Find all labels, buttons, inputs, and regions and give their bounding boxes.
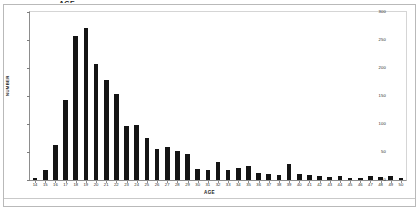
bar bbox=[266, 174, 271, 180]
x-axis-tick-label: 20 bbox=[91, 183, 101, 187]
bar bbox=[134, 125, 139, 180]
bar bbox=[155, 149, 160, 180]
clipped-title: AGE bbox=[59, 0, 75, 3]
x-axis-tick-label: 34 bbox=[233, 183, 243, 187]
x-axis-tick-label: 42 bbox=[315, 183, 325, 187]
bar bbox=[53, 145, 58, 180]
bar bbox=[236, 168, 241, 180]
x-axis-tick-label: 16 bbox=[50, 183, 60, 187]
x-axis-tick-label: 23 bbox=[121, 183, 131, 187]
x-axis-tick-label: 22 bbox=[111, 183, 121, 187]
bar bbox=[216, 162, 221, 180]
bottom-divider bbox=[4, 198, 415, 199]
x-axis-tick-label: 14 bbox=[30, 183, 40, 187]
bar bbox=[104, 80, 109, 180]
x-axis-tick-label: 38 bbox=[274, 183, 284, 187]
x-axis-tick-label: 30 bbox=[193, 183, 203, 187]
x-axis-tick-label: 17 bbox=[60, 183, 70, 187]
bar bbox=[195, 169, 200, 180]
bar bbox=[287, 164, 292, 180]
bar bbox=[348, 178, 353, 180]
x-axis-tick-label: 24 bbox=[132, 183, 142, 187]
bar bbox=[378, 177, 383, 180]
x-axis-tick-label: 36 bbox=[254, 183, 264, 187]
bar bbox=[327, 177, 332, 180]
bar bbox=[63, 100, 68, 180]
x-axis-tick-label: 41 bbox=[304, 183, 314, 187]
bar bbox=[388, 176, 393, 180]
x-axis-tick-label: 40 bbox=[294, 183, 304, 187]
x-axis-tick-label: 31 bbox=[203, 183, 213, 187]
bar bbox=[175, 151, 180, 180]
x-axis-tick-label: 27 bbox=[162, 183, 172, 187]
x-axis-tick-label: 25 bbox=[142, 183, 152, 187]
x-axis-tick-label: 50 bbox=[396, 183, 406, 187]
bar bbox=[114, 94, 119, 180]
x-axis-tick-label: 35 bbox=[243, 183, 253, 187]
bar bbox=[73, 36, 78, 180]
x-axis-tick-label: 44 bbox=[335, 183, 345, 187]
x-axis-tick-label: 26 bbox=[152, 183, 162, 187]
bar bbox=[84, 28, 89, 180]
chart-screenshot: AGE NUMBER 050100150200250300 AGE 141516… bbox=[0, 0, 419, 210]
y-axis-tick-mark bbox=[27, 180, 30, 181]
bar bbox=[206, 170, 211, 180]
x-axis-tick-label: 18 bbox=[71, 183, 81, 187]
x-axis-tick-label: 21 bbox=[101, 183, 111, 187]
bar bbox=[307, 175, 312, 180]
x-axis-tick-label: 45 bbox=[345, 183, 355, 187]
x-axis-tick-label: 32 bbox=[213, 183, 223, 187]
x-axis-tick-label: 15 bbox=[40, 183, 50, 187]
bar bbox=[317, 176, 322, 180]
bar bbox=[185, 154, 190, 180]
bar bbox=[43, 170, 48, 180]
bar bbox=[145, 138, 150, 180]
x-axis-tick-label: 49 bbox=[386, 183, 396, 187]
plot-area bbox=[30, 12, 406, 180]
x-axis-tick-label: 29 bbox=[182, 183, 192, 187]
bar bbox=[368, 176, 373, 180]
x-axis-tick-label: 47 bbox=[365, 183, 375, 187]
x-axis-tick-label: 48 bbox=[376, 183, 386, 187]
bar bbox=[256, 173, 261, 180]
x-axis-tick-label: 33 bbox=[223, 183, 233, 187]
bar bbox=[33, 178, 38, 180]
x-axis-tick-label: 39 bbox=[284, 183, 294, 187]
bar bbox=[226, 170, 231, 180]
bar bbox=[124, 126, 129, 180]
bar bbox=[297, 174, 302, 180]
bar bbox=[338, 176, 343, 180]
bar bbox=[246, 166, 251, 180]
x-axis-tick-label: 37 bbox=[264, 183, 274, 187]
y-axis-title: NUMBER bbox=[6, 75, 10, 96]
bar bbox=[165, 147, 170, 180]
bar bbox=[358, 178, 363, 180]
x-axis-tick-label: 19 bbox=[81, 183, 91, 187]
x-axis-tick-label: 46 bbox=[355, 183, 365, 187]
x-axis-tick-label: 43 bbox=[325, 183, 335, 187]
bar bbox=[399, 178, 404, 180]
x-axis-tick-label: 28 bbox=[172, 183, 182, 187]
bar bbox=[277, 175, 282, 180]
x-axis-title: AGE bbox=[0, 191, 419, 196]
bar bbox=[94, 64, 99, 180]
